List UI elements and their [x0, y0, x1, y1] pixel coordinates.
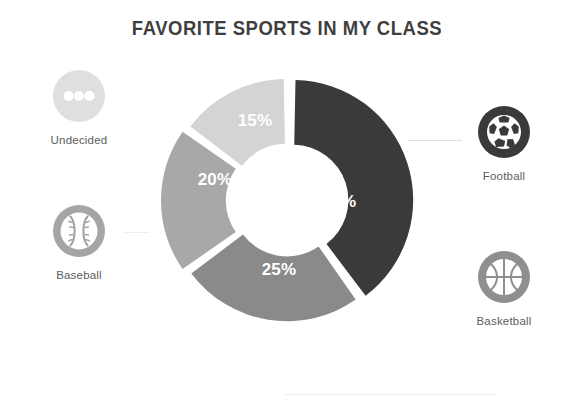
slice-label-baseball: 20%	[198, 170, 233, 189]
soccer-ball-icon	[476, 104, 532, 160]
basketball-icon	[476, 249, 532, 305]
slice-label-undecided: 15%	[238, 111, 273, 130]
legend-label-undecided: Undecided	[24, 133, 134, 147]
legend-item-football[interactable]: Football	[449, 104, 559, 183]
legend-label-football: Football	[449, 169, 559, 183]
legend-label-baseball: Baseball	[24, 268, 134, 282]
ellipsis-circle-icon	[51, 68, 107, 124]
legend-label-basketball: Basketball	[449, 314, 559, 328]
page-title: FAVORITE SPORTS IN MY CLASS	[34, 16, 539, 40]
legend-item-basketball[interactable]: Basketball	[449, 249, 559, 328]
donut-chart-svg: 40% 25% 20% 15%	[157, 70, 427, 340]
legend-item-undecided[interactable]: Undecided	[24, 68, 134, 147]
slice-label-football: 40%	[322, 192, 357, 211]
baseball-icon	[51, 203, 107, 259]
connector-line-bottom	[285, 394, 497, 395]
slice-label-basketball: 25%	[262, 260, 297, 279]
donut-chart: 40% 25% 20% 15%	[157, 70, 427, 340]
legend-item-baseball[interactable]: Baseball	[24, 203, 134, 282]
